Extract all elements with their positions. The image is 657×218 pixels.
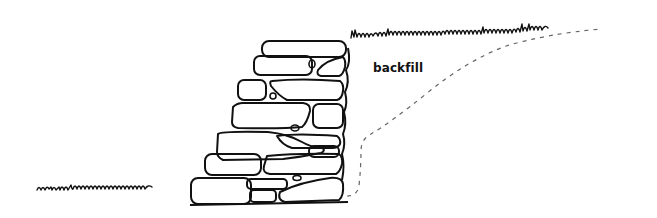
retaining-wall-diagram [0, 0, 657, 218]
stone [191, 178, 251, 204]
stone [205, 154, 261, 175]
backfill-boundary-dashed-line [347, 29, 601, 196]
stone-wall [190, 41, 348, 205]
lower-grass-line [37, 185, 152, 190]
upper-grass-line [351, 24, 548, 38]
stone [317, 57, 345, 76]
pebble [270, 93, 276, 99]
stone [254, 56, 312, 75]
stone [313, 104, 343, 128]
stone [247, 179, 287, 189]
pebble [293, 176, 301, 181]
stone [279, 178, 343, 202]
stone [262, 41, 346, 57]
stone [232, 103, 310, 128]
stone [270, 80, 343, 101]
backfill-label: backfill [373, 61, 423, 75]
stone [250, 190, 276, 202]
stone [238, 80, 266, 100]
